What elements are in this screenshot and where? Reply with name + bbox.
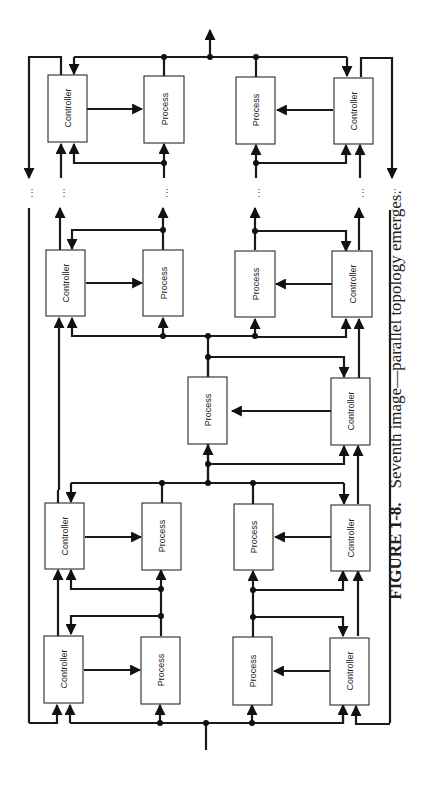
block-label: Process	[157, 519, 167, 552]
block-label: Controller	[345, 651, 355, 690]
process-block: Process	[142, 503, 181, 570]
figure-number: FIGURE 1-8.	[386, 502, 405, 599]
continuation-dots: ⋮	[162, 187, 172, 198]
block-label: Controller	[348, 264, 358, 303]
block-label: Controller	[59, 649, 69, 688]
process-block: Process	[143, 250, 183, 316]
figure-caption: FIGURE 1-8.Seventh image—parallel topolo…	[386, 190, 406, 599]
block-label: Process	[248, 654, 258, 687]
controller-block: Controller	[332, 251, 372, 317]
process-block: Process	[188, 377, 227, 444]
block-label: Controller	[63, 88, 73, 127]
block-label: Process	[251, 93, 261, 126]
block-label: Controller	[61, 263, 71, 302]
block-label: Controller	[349, 91, 359, 130]
controller-block: Controller	[331, 505, 370, 571]
block-label: Process	[203, 393, 213, 426]
continuation-dots: ⋮	[254, 187, 264, 198]
block-label: Controller	[60, 516, 70, 555]
controller-block: Controller	[48, 75, 87, 142]
controller-block: Controller	[334, 78, 373, 144]
controller-block: Controller	[46, 250, 85, 316]
figure-caption-text: Seventh image—parallel topology emerges.	[386, 190, 405, 488]
block-label: Process	[249, 520, 259, 553]
block-label: Process	[251, 267, 261, 300]
continuation-dots: ⋮	[358, 187, 368, 198]
process-block: Process	[141, 637, 180, 704]
process-block: Process	[236, 77, 275, 144]
block-label: Process	[160, 92, 170, 125]
controller-block: Controller	[331, 378, 370, 445]
controller-block: Controller	[44, 636, 83, 703]
process-block: Process	[234, 504, 273, 570]
controller-block: Controller	[45, 503, 84, 569]
block-label: Controller	[346, 518, 356, 557]
process-block: Process	[233, 637, 272, 705]
controller-block: Controller	[330, 638, 369, 705]
continuation-dots: ⋮	[27, 187, 37, 198]
continuation-dots: ⋮	[59, 187, 69, 198]
block-label: Process	[156, 653, 166, 686]
process-block: Process	[144, 76, 184, 143]
block-label: Controller	[346, 391, 356, 430]
process-block: Process	[235, 251, 275, 317]
continuation-markers: ⋮ ⋮ ⋮ ⋮ ⋮ ⋮	[27, 187, 400, 198]
block-label: Process	[159, 266, 169, 299]
parallel-topology-diagram: ⋮ ⋮ ⋮ ⋮ ⋮ ⋮ Controller Process Process C…	[0, 0, 426, 791]
